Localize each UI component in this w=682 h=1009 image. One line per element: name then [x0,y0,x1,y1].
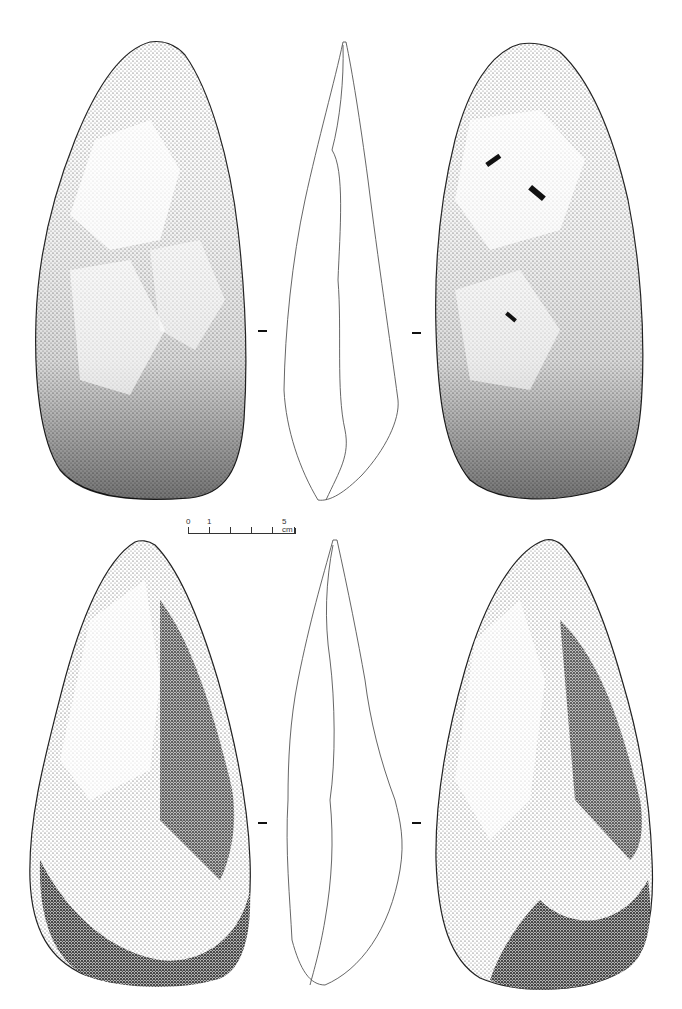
reference-tick [412,332,421,334]
handaxe-2-face-b [436,540,653,990]
reference-tick [258,330,267,332]
scale-tick [272,527,273,533]
reference-tick [258,822,267,824]
handaxe-2-face-a [30,541,250,987]
scale-label-1: 1 [207,518,211,526]
scale-bar-line [188,528,296,534]
scale-bar: 0 1 5 cm [186,518,298,538]
scale-tick [188,527,189,533]
reference-tick [412,822,421,824]
scale-label-0: 0 [186,518,190,526]
scale-tick [251,527,252,533]
handaxe-1-profile [284,42,398,500]
scale-tick [230,527,231,533]
handaxe-1-face-a [36,42,246,500]
scale-tick [209,527,210,533]
scale-tick [294,527,295,533]
handaxe-2-profile [287,540,402,985]
handaxe-drawings [0,0,682,1009]
handaxe-1-face-b [436,43,643,499]
